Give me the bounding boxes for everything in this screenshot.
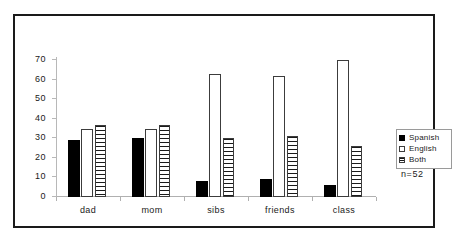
- bar-group: class: [324, 60, 364, 197]
- bar-group: friends: [260, 60, 300, 197]
- x-axis-tick: [56, 197, 57, 201]
- bar-dad-spanish[interactable]: [68, 140, 79, 197]
- y-axis-tick-label: 70: [35, 54, 46, 64]
- bar-mom-spanish[interactable]: [132, 138, 143, 197]
- bar-class-spanish[interactable]: [324, 185, 335, 197]
- bar-friends-both[interactable]: [287, 136, 298, 197]
- bar-mom-english[interactable]: [145, 129, 156, 198]
- bar-friends-english[interactable]: [273, 76, 284, 197]
- y-axis-tick: 50: [52, 98, 57, 99]
- legend-item-both[interactable]: Both: [399, 154, 449, 165]
- bar-friends-spanish[interactable]: [260, 179, 271, 197]
- bar-sibs-spanish[interactable]: [196, 181, 207, 197]
- y-axis-tick: 10: [52, 176, 57, 177]
- bar-dad-english[interactable]: [81, 129, 92, 198]
- x-axis-category-label-friends: friends: [260, 205, 300, 215]
- x-axis-tick: [248, 197, 249, 201]
- bar-sibs-both[interactable]: [223, 138, 234, 197]
- y-axis-tick: 60: [52, 79, 57, 80]
- y-axis-tick: 70: [52, 59, 57, 60]
- x-axis-tick: [120, 197, 121, 201]
- bar-sibs-english[interactable]: [209, 74, 220, 197]
- y-axis-tick-label: 10: [35, 171, 46, 181]
- legend-swatch-both-icon: [399, 157, 405, 163]
- legend-swatch-english-icon: [399, 146, 405, 152]
- legend-label: English: [409, 144, 437, 153]
- x-axis-category-label-sibs: sibs: [196, 205, 236, 215]
- bar-class-both[interactable]: [351, 146, 362, 197]
- legend-swatch-spanish-icon: [399, 135, 405, 141]
- bar-group: mom: [132, 60, 172, 197]
- y-axis-tick-label: 40: [35, 113, 46, 123]
- x-axis-tick: [184, 197, 185, 201]
- bar-class-english[interactable]: [337, 60, 348, 197]
- chart-legend: SpanishEnglishBoth: [396, 129, 452, 169]
- x-axis-tick: [312, 197, 313, 201]
- y-axis-tick-label: 50: [35, 93, 46, 103]
- x-axis-category-label-class: class: [324, 205, 364, 215]
- x-axis-category-label-dad: dad: [68, 205, 108, 215]
- bar-group: dad: [68, 60, 108, 197]
- bar-mom-both[interactable]: [159, 125, 170, 197]
- x-axis-tick: [376, 197, 377, 201]
- legend-label: Spanish: [409, 133, 439, 142]
- legend-label: Both: [409, 155, 426, 164]
- y-axis-tick: 20: [52, 157, 57, 158]
- y-axis-tick-label: 30: [35, 132, 46, 142]
- chart-frame: 010203040506070 dadmomsibsfriendsclass S…: [13, 14, 435, 228]
- bar-dad-both[interactable]: [95, 125, 106, 197]
- x-axis-category-label-mom: mom: [132, 205, 172, 215]
- plot-area: 010203040506070 dadmomsibsfriendsclass: [56, 60, 376, 197]
- y-axis-tick-label: 60: [35, 74, 46, 84]
- legend-item-spanish[interactable]: Spanish: [399, 132, 449, 143]
- y-axis-tick-label: 20: [35, 152, 46, 162]
- y-axis-tick: 40: [52, 118, 57, 119]
- bar-group: sibs: [196, 60, 236, 197]
- sample-size-annotation: n=52: [401, 169, 424, 179]
- legend-item-english[interactable]: English: [399, 143, 449, 154]
- y-axis-tick-label: 0: [40, 191, 46, 201]
- y-axis-tick: 30: [52, 137, 57, 138]
